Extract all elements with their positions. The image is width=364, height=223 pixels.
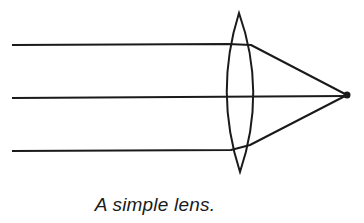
figure-caption: A simple lens. (0, 194, 310, 216)
top-ray (12, 44, 347, 95)
center-ray (12, 96, 347, 98)
lens-diagram (0, 0, 364, 223)
bottom-ray (12, 95, 347, 151)
focal-point (344, 92, 351, 99)
